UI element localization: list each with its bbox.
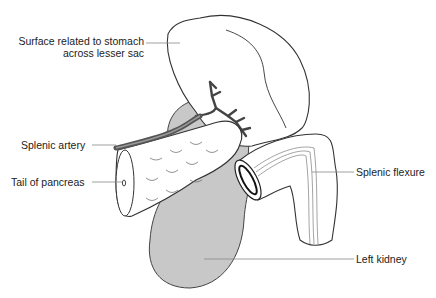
label-stomach-surface: Surface related to stomach across lesser…: [10, 35, 144, 59]
label-line-1: Surface related to stomach: [10, 35, 144, 47]
pancreas-cut-surface: [116, 150, 134, 216]
label-splenic-artery: Splenic artery: [21, 139, 85, 151]
label-left-kidney: Left kidney: [356, 253, 407, 265]
label-tail-of-pancreas: Tail of pancreas: [11, 176, 85, 188]
label-line-2: across lesser sac: [10, 47, 144, 59]
label-splenic-flexure: Splenic flexure: [356, 166, 425, 178]
